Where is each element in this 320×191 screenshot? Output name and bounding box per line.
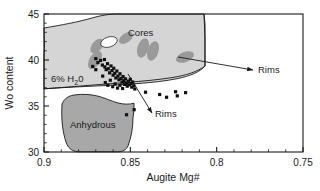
y-tick-label: 30 — [28, 147, 40, 158]
data-point — [101, 75, 104, 78]
data-point — [106, 62, 109, 65]
anhydrous-field-label: Anhydrous — [70, 119, 116, 130]
data-point — [176, 94, 179, 97]
x-axis-tick-labels: 0.90.850.80.75 — [37, 157, 313, 168]
x-tick-label: 0.9 — [37, 157, 51, 168]
y-tick-label: 35 — [28, 101, 40, 112]
data-point — [104, 81, 107, 84]
hydrous-field-label-suffix: 0 — [78, 73, 83, 84]
data-point — [174, 90, 177, 93]
rims-lower-label: Rims — [155, 108, 177, 119]
figure-container: Cores 6% H20 Anhydrous Rims Rims 0.90.85… — [0, 0, 320, 191]
data-point — [91, 65, 94, 68]
data-point — [112, 67, 115, 70]
data-point — [111, 85, 114, 88]
data-point — [115, 69, 118, 72]
hydrous-field-label: 6% H20 — [51, 73, 83, 86]
data-point — [103, 58, 106, 61]
data-point — [94, 57, 97, 60]
y-axis-title: Wo content — [3, 56, 15, 109]
data-point — [125, 113, 128, 116]
data-point — [103, 65, 106, 68]
data-point — [94, 68, 97, 71]
data-point — [121, 87, 124, 90]
y-tick-label: 40 — [28, 55, 40, 66]
data-point — [114, 82, 117, 85]
x-tick-label: 0.8 — [210, 157, 224, 168]
data-point — [99, 59, 102, 62]
data-point — [116, 86, 119, 89]
data-point — [133, 108, 136, 111]
data-point — [118, 72, 121, 75]
data-point — [106, 84, 109, 87]
data-point — [96, 61, 99, 64]
cores-label: Cores — [128, 27, 154, 38]
data-point — [184, 91, 187, 94]
y-tick-label: 45 — [28, 9, 40, 20]
x-tick-label: 0.85 — [121, 157, 141, 168]
rims-upper-label: Rims — [258, 64, 280, 75]
wo-content-vs-augite-mg-scatter-plot: Cores 6% H20 Anhydrous Rims Rims 0.90.85… — [0, 0, 320, 191]
y-axis-tick-labels: 30354045 — [28, 9, 40, 158]
hydrous-field-label-prefix: 6% H — [51, 73, 74, 84]
data-point — [158, 93, 161, 96]
data-point — [109, 79, 112, 82]
data-point — [107, 67, 110, 70]
data-point — [165, 96, 168, 99]
data-point — [133, 87, 136, 90]
x-tick-label: 0.75 — [293, 157, 313, 168]
x-axis-title: Augite Mg# — [146, 171, 199, 183]
data-point — [124, 77, 127, 80]
data-point — [118, 84, 121, 87]
data-point — [109, 64, 112, 67]
data-point — [144, 91, 147, 94]
